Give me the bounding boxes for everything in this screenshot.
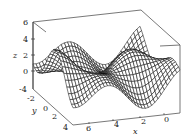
- y-tick-2: 2: [52, 112, 57, 121]
- z-axis-label: z: [12, 51, 18, 60]
- x-tick-6: 6: [86, 124, 91, 133]
- x-tick-2: 2: [141, 117, 146, 126]
- y-tick-0: 0: [43, 104, 48, 113]
- y-axis-label: y: [31, 106, 37, 115]
- y-tick-neg4: -4: [19, 85, 27, 94]
- z-tick-6: 6: [23, 18, 28, 27]
- z-tick-0: 0: [23, 67, 28, 76]
- z-axis: 6 4 2 0 z: [12, 18, 35, 89]
- z-tick-2: 2: [23, 51, 28, 60]
- y-tick-4: 4: [63, 123, 68, 132]
- x-tick-4: 4: [114, 120, 119, 129]
- x-tick-0: 0: [164, 115, 169, 124]
- surface-plot: 6 4 2 0 z -4 -2 0 2 4 y 6 4 2 0 x: [0, 0, 196, 140]
- x-axis: 6 4 2 0 x: [86, 113, 169, 136]
- z-tick-4: 4: [23, 35, 28, 44]
- y-axis: -4 -2 0 2 4 y: [19, 85, 68, 132]
- y-tick-neg2: -2: [27, 94, 35, 103]
- x-axis-label: x: [133, 127, 138, 136]
- surface-mesh: [33, 26, 180, 108]
